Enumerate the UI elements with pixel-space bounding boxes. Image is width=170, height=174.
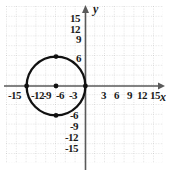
x-tick-label: -3 [69, 90, 77, 101]
y-tick-label: 9 [76, 34, 81, 45]
coordinate-plane-figure: -15 -12 -9 -6 -3 3 6 9 12 15 15 12 9 6 -… [0, 0, 170, 174]
x-tick-label: 12 [137, 90, 147, 101]
x-tick-label: -15 [8, 90, 21, 101]
point-center [54, 84, 59, 89]
y-axis-label: y [93, 3, 98, 15]
x-tick-label: -6 [56, 90, 64, 101]
x-tick-label: 9 [127, 90, 132, 101]
x-tick-label: -12 [31, 90, 44, 101]
y-tick-label: -15 [65, 143, 78, 154]
point-right [83, 84, 88, 89]
point-bottom [54, 113, 59, 118]
x-axis-label: x [160, 91, 166, 103]
point-top [54, 54, 59, 59]
x-tick-label: 6 [114, 90, 119, 101]
x-tick-label: 15 [150, 90, 160, 101]
graph-canvas [0, 0, 170, 174]
x-tick-label: 3 [101, 90, 106, 101]
x-tick-label: -9 [43, 90, 51, 101]
y-tick-label: 6 [76, 53, 81, 64]
point-left [24, 84, 29, 89]
